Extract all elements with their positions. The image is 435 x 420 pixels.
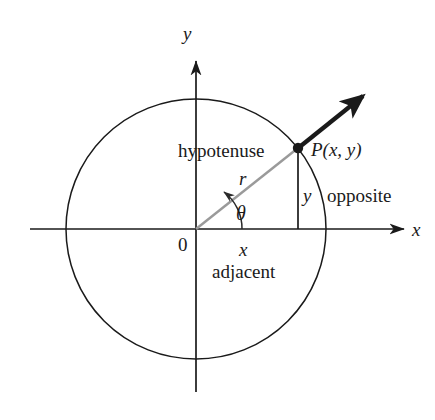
opposite-value-label: y xyxy=(303,186,311,205)
origin-label: 0 xyxy=(178,235,188,254)
point-p-marker xyxy=(293,143,303,153)
adjacent-word-label: adjacent xyxy=(212,262,275,281)
y-axis-label: y xyxy=(183,24,191,43)
trig-diagram: y x 0 hypotenuse r P(x, y) y opposite θ … xyxy=(0,0,435,420)
hypotenuse-label: hypotenuse xyxy=(178,141,265,160)
angle-theta-label: θ xyxy=(236,203,246,223)
opposite-word-label: opposite xyxy=(327,186,391,205)
point-p-label: P(x, y) xyxy=(311,140,362,159)
diagram-canvas xyxy=(0,0,435,420)
radius-label: r xyxy=(239,169,246,188)
x-axis-label: x xyxy=(412,220,420,239)
adjacent-value-label: x xyxy=(239,240,247,259)
